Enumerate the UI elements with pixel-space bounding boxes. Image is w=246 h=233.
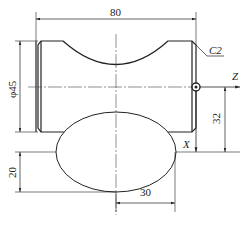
z-axis-label: Z (232, 70, 239, 82)
dim-30-label: 30 (140, 186, 152, 198)
x-axis-label: X (182, 138, 191, 150)
chamfer-label: C2 (209, 44, 222, 56)
dim-20-label: 20 (6, 167, 18, 179)
dim-diameter-label: φ45 (6, 80, 18, 98)
dim-80-label: 80 (110, 6, 122, 18)
dim-32-label: 32 (210, 113, 222, 124)
part-drawing: Z X 80 φ45 C2 32 20 30 (0, 0, 246, 233)
